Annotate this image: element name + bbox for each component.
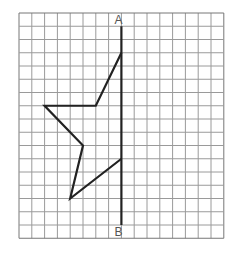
label-a: A bbox=[114, 14, 122, 26]
grid-diagram bbox=[0, 0, 234, 254]
label-b: B bbox=[114, 226, 122, 238]
